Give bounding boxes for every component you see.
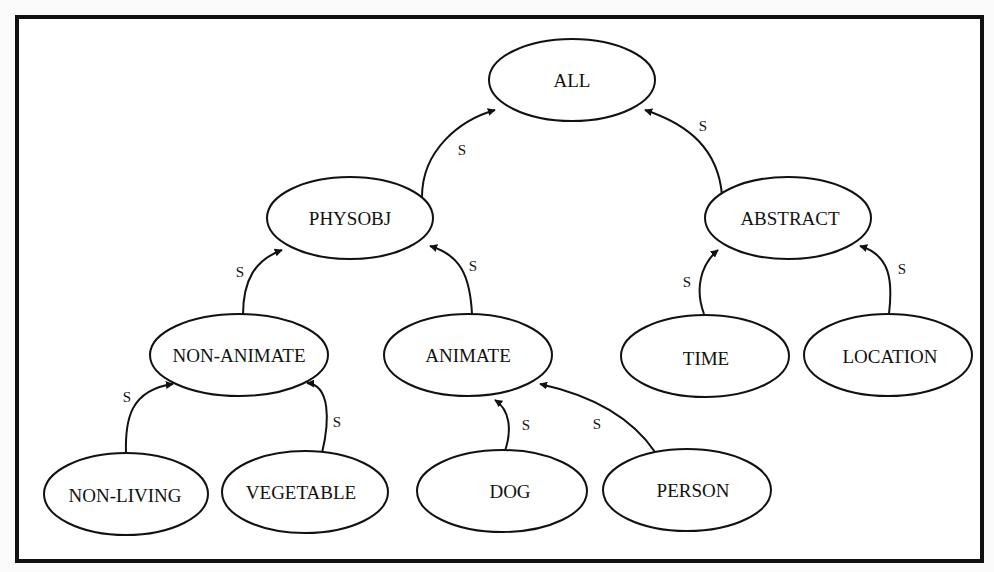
node-location-label: LOCATION: [843, 346, 938, 367]
node-non-animate: NON-ANIMATE: [150, 314, 328, 396]
node-vegetable: VEGETABLE: [222, 451, 388, 533]
node-abstract-label: ABSTRACT: [740, 208, 840, 229]
edge-label-nonanimate-physobj: S: [236, 264, 244, 280]
node-non-animate-label: NON-ANIMATE: [173, 345, 306, 366]
semantic-hierarchy-diagram: S S S S S S S S S S ALL PHYSOBJ ABSTRACT…: [0, 0, 994, 572]
node-all: ALL: [489, 39, 655, 121]
node-all-label: ALL: [554, 70, 591, 91]
edge-label-time-abstract: S: [683, 274, 691, 290]
edge-label-dog-animate: S: [522, 417, 530, 433]
edge-label-abstract-all: S: [699, 118, 707, 134]
node-non-living: NON-LIVING: [44, 453, 208, 535]
node-physobj-label: PHYSOBJ: [309, 208, 391, 229]
node-person-label: PERSON: [657, 480, 730, 501]
node-animate-label: ANIMATE: [425, 345, 511, 366]
node-abstract: ABSTRACT: [705, 177, 871, 259]
edge-label-physobj-all: S: [458, 142, 466, 158]
node-animate: ANIMATE: [384, 314, 552, 396]
edge-label-location-abstract: S: [898, 261, 906, 277]
node-dog-label: DOG: [489, 481, 530, 502]
edge-label-nonliving-nonanimate: S: [123, 389, 131, 405]
node-person: PERSON: [603, 449, 771, 531]
edge-label-vegetable-nonanimate: S: [333, 414, 341, 430]
edge-label-animate-physobj: S: [469, 258, 477, 274]
node-time-label: TIME: [683, 348, 729, 369]
node-location: LOCATION: [804, 314, 972, 396]
node-dog: DOG: [417, 450, 587, 532]
node-vegetable-label: VEGETABLE: [246, 482, 356, 503]
node-non-living-label: NON-LIVING: [69, 485, 182, 506]
node-physobj: PHYSOBJ: [267, 177, 433, 259]
node-time: TIME: [621, 315, 789, 397]
edge-label-person-animate: S: [593, 416, 601, 432]
